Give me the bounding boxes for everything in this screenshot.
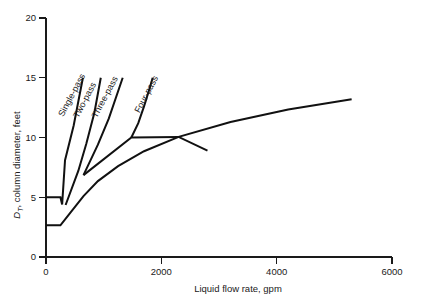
- y-axis-title: DT, column diameter, feet: [11, 111, 24, 219]
- y-tick-label: 5: [31, 192, 36, 203]
- x-tick-label: 4000: [266, 266, 287, 277]
- curve-lower-envelope: [46, 99, 352, 225]
- x-axis-title: Liquid flow rate, gpm: [194, 283, 282, 294]
- y-tick-label: 0: [31, 251, 36, 262]
- figure-container: 05101520 0200040006000 Single-passTwo-pa…: [0, 0, 422, 303]
- curve-upper-envelope: [83, 137, 207, 175]
- x-tick-group: 0200040006000: [43, 257, 402, 277]
- axes-group: [46, 18, 392, 257]
- y-tick-group: 05101520: [25, 12, 46, 262]
- axis-title-group: Liquid flow rate, gpm DT, column diamete…: [11, 111, 282, 294]
- curve-label-group: Single-passTwo-passThree-passFour-pass: [56, 71, 160, 119]
- curve-label-four-pass: Four-pass: [132, 74, 160, 115]
- y-tick-label: 15: [25, 72, 36, 83]
- y-axis-title-rest: , column diameter, feet: [11, 111, 22, 207]
- x-tick-label: 6000: [381, 266, 402, 277]
- x-tick-label: 2000: [151, 266, 172, 277]
- chart-plot: 05101520 0200040006000 Single-passTwo-pa…: [0, 0, 422, 303]
- curve-group: [46, 78, 352, 226]
- y-tick-label: 20: [25, 12, 36, 23]
- y-tick-label: 10: [25, 132, 36, 143]
- x-tick-label: 0: [43, 266, 48, 277]
